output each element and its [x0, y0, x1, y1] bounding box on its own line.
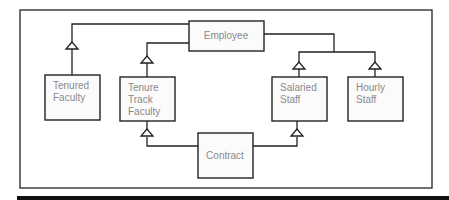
class-diagram: Employee Tenured Faculty Tenure Track Fa… [0, 0, 449, 200]
class-label: Salaried [280, 82, 317, 93]
class-label: Tenure [128, 82, 159, 93]
class-label: Faculty [128, 106, 160, 117]
connector-contract-salaried [253, 137, 297, 146]
class-employee: Employee [189, 21, 264, 51]
class-label: Tenured [53, 80, 89, 91]
class-label: Contract [206, 150, 244, 161]
inheritance-arrow-tenure-track [141, 56, 153, 63]
connector-staff-branch [299, 52, 375, 64]
class-label: Staff [356, 94, 377, 105]
inheritance-arrow-contract-salaried [291, 129, 303, 136]
class-label: Hourly [356, 82, 385, 93]
connector-employee-tenured [72, 24, 189, 42]
inheritance-arrow-salaried [293, 62, 305, 69]
bottom-rule [17, 196, 449, 200]
class-label: Staff [280, 94, 301, 105]
class-contract: Contract [198, 133, 253, 178]
connector-contract-tenure-track [147, 137, 198, 146]
class-tenured-faculty: Tenured Faculty [45, 75, 100, 120]
connector-employee-tenure-track [147, 43, 189, 56]
class-label: Faculty [53, 92, 85, 103]
class-label: Employee [204, 30, 249, 41]
class-tenure-track-faculty: Tenure Track Faculty [120, 77, 175, 121]
inheritance-arrow-hourly [369, 62, 381, 69]
class-label: Track [128, 94, 154, 105]
inheritance-arrow-contract-tenure-track [141, 129, 153, 136]
class-hourly-staff: Hourly Staff [348, 77, 403, 121]
connector-employee-staff [264, 34, 334, 52]
class-salaried-staff: Salaried Staff [272, 77, 327, 121]
inheritance-arrow-tenured [66, 42, 78, 49]
